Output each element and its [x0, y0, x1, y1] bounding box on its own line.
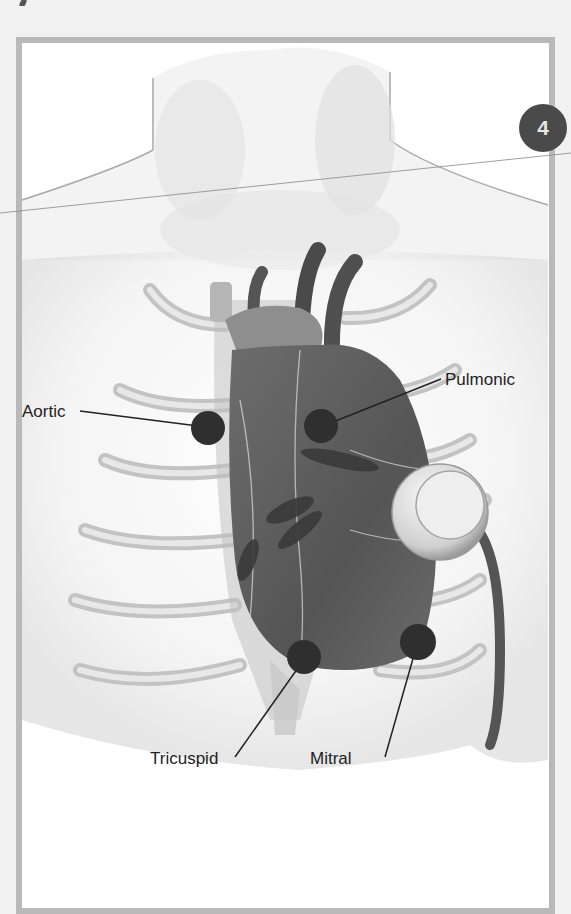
label-aortic: Aortic: [22, 403, 65, 420]
neck-shading: [22, 48, 548, 270]
aortic-marker: [191, 411, 225, 445]
figure-number: 4: [537, 116, 549, 140]
label-tricuspid: Tricuspid: [150, 750, 218, 767]
figure-number-badge: 4: [519, 104, 567, 152]
pulmonic-marker: [304, 409, 338, 443]
label-pulmonic: Pulmonic: [445, 371, 515, 388]
chest-heart-illustration: [0, 0, 571, 914]
tricuspid-marker: [287, 640, 321, 674]
mitral-marker: [400, 624, 436, 660]
label-mitral: Mitral: [310, 750, 352, 767]
